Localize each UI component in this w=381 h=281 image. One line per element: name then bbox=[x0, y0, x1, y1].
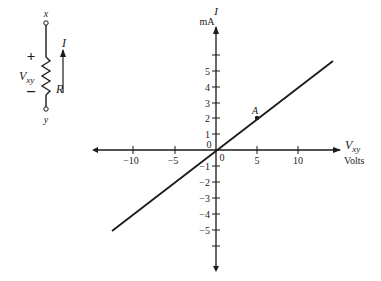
x-axis-left-arrow-icon bbox=[92, 147, 98, 153]
y-tick-label: 4 bbox=[205, 82, 210, 93]
terminal-x bbox=[44, 21, 48, 25]
current-label: I bbox=[61, 36, 67, 50]
iv-characteristic-line bbox=[112, 61, 333, 231]
plus-sign: + bbox=[27, 48, 36, 64]
y-axis-down-arrow-icon bbox=[213, 266, 219, 272]
y-tick-label: −5 bbox=[199, 225, 210, 236]
x-axis-unit: Volts bbox=[344, 155, 364, 166]
y-axis-unit: mA bbox=[200, 16, 216, 27]
y-tick-label: 2 bbox=[205, 113, 210, 124]
y-tick-label: 3 bbox=[205, 98, 210, 109]
x-tick-label: −5 bbox=[168, 155, 179, 166]
minus-sign: – bbox=[26, 82, 36, 99]
y-tick-label: −4 bbox=[199, 209, 210, 220]
point-a-marker bbox=[255, 116, 259, 120]
x-tick-label: 5 bbox=[255, 155, 260, 166]
terminal-y bbox=[44, 107, 48, 111]
y-tick-label: −2 bbox=[199, 177, 210, 188]
origin-label-right: 0 bbox=[220, 152, 225, 163]
y-tick-label: −3 bbox=[199, 193, 210, 204]
iv-graph: I mA Vxy Volts −10 −5 5 10 bbox=[92, 5, 364, 272]
x-ticks: −10 −5 5 10 bbox=[123, 146, 303, 166]
terminal-y-label: y bbox=[43, 114, 49, 125]
x-axis-label: Vxy bbox=[345, 138, 360, 154]
x-tick-label: −10 bbox=[123, 155, 139, 166]
x-tick-label: 10 bbox=[293, 155, 303, 166]
point-a-label: A bbox=[251, 105, 259, 116]
circuit-diagram: x y + Vxy – R I bbox=[19, 8, 67, 125]
origin-label-left: 0 bbox=[207, 139, 212, 150]
terminal-x-label: x bbox=[43, 8, 49, 19]
y-tick-label: 5 bbox=[205, 66, 210, 77]
resistor-icon bbox=[42, 57, 50, 95]
diagram-canvas: x y + Vxy – R I I mA Vxy Volts −10 bbox=[0, 0, 381, 281]
